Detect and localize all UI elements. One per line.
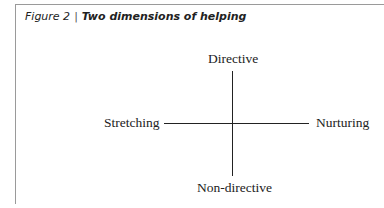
label-stretching: Stretching — [104, 115, 160, 131]
frame-left-border — [15, 4, 16, 204]
label-nurturing: Nurturing — [316, 115, 369, 131]
label-directive: Directive — [208, 51, 258, 67]
horizontal-axis — [164, 123, 309, 124]
frame-top-border — [15, 4, 384, 5]
figure-title: Two dimensions of helping — [82, 10, 247, 23]
figure-number: Figure 2 — [25, 10, 70, 23]
label-non-directive: Non-directive — [197, 180, 272, 196]
caption-separator: | — [74, 10, 78, 23]
figure-caption: Figure 2|Two dimensions of helping — [25, 10, 246, 23]
